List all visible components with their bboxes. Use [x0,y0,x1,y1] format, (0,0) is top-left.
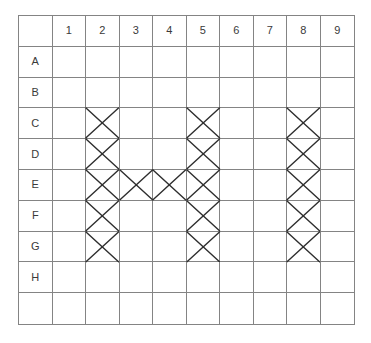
grid-cell [53,47,87,78]
x-mark-icon [287,170,320,200]
grid-cell [153,108,187,139]
grid-cell-marked [86,201,120,232]
grid-cell [53,201,87,232]
grid-cell-marked [86,139,120,170]
grid-cell-marked [287,170,321,201]
grid-cell [321,108,355,139]
grid-cell [220,108,254,139]
coordinate-grid: 123456789ABCDEFGH [18,15,355,325]
grid-cell [120,293,154,324]
row-label: H [19,262,53,293]
x-mark-icon [187,170,220,200]
grid-cell [220,201,254,232]
grid-cell [287,78,321,109]
grid-cell [187,78,221,109]
column-header: 5 [187,16,221,47]
grid-cell-marked [86,232,120,263]
grid-cell-marked [287,201,321,232]
grid-cell [153,262,187,293]
grid-cell [120,78,154,109]
grid-cell [220,47,254,78]
grid-cell [220,293,254,324]
x-mark-icon [187,201,220,231]
grid-cell [53,262,87,293]
grid-cell [187,262,221,293]
grid-cell [321,201,355,232]
grid-cell [53,170,87,201]
x-mark-icon [287,139,320,169]
column-header: 7 [254,16,288,47]
x-mark-icon [187,232,220,262]
grid-cell [254,108,288,139]
row-label: F [19,201,53,232]
x-mark-icon [287,232,320,262]
grid-cell [120,139,154,170]
grid-cell [321,170,355,201]
column-header: 2 [86,16,120,47]
grid-cell [220,262,254,293]
grid-cell [254,47,288,78]
grid-cell [153,232,187,263]
grid-cell [321,262,355,293]
grid-cell [254,232,288,263]
grid-cell [220,139,254,170]
grid-cell [254,262,288,293]
row-label: G [19,232,53,263]
grid-cell [86,47,120,78]
grid-cell [254,170,288,201]
row-label: B [19,78,53,109]
grid-cell [153,201,187,232]
x-mark-icon [86,170,119,200]
column-header: 6 [220,16,254,47]
grid-cell [254,293,288,324]
grid-cell-marked [287,139,321,170]
grid-cell [321,232,355,263]
grid-cell-marked [287,232,321,263]
grid-cell [53,293,87,324]
grid-cell [53,108,87,139]
grid-cell [153,78,187,109]
grid-cell [153,139,187,170]
empty-row-label [19,293,53,324]
grid-cell-marked [187,232,221,263]
grid-cell [53,232,87,263]
x-mark-icon [86,108,119,138]
grid-cell [287,293,321,324]
grid-cell [321,139,355,170]
x-mark-icon [187,108,220,138]
corner-cell [19,16,53,47]
column-header: 3 [120,16,154,47]
grid-cell [86,293,120,324]
grid-cell [254,201,288,232]
grid-cell [287,47,321,78]
column-header: 8 [287,16,321,47]
grid-cell [53,78,87,109]
row-label: A [19,47,53,78]
x-mark-icon [153,170,186,200]
grid-cell [86,262,120,293]
grid-cell-marked [86,108,120,139]
grid-cell [254,78,288,109]
x-mark-icon [86,201,119,231]
grid-cell [254,139,288,170]
grid-cell-marked [187,201,221,232]
grid-cell [53,139,87,170]
grid-cell [187,47,221,78]
grid-cell-marked [187,139,221,170]
grid-cell [321,293,355,324]
grid-cell-marked [187,170,221,201]
grid-cell [120,262,154,293]
grid-cell-marked [287,108,321,139]
x-mark-icon [86,232,119,262]
row-label: D [19,139,53,170]
column-header: 9 [321,16,355,47]
grid-cell [287,262,321,293]
grid-cell [220,232,254,263]
x-mark-icon [86,139,119,169]
grid-cell-marked [86,170,120,201]
grid-cell [220,170,254,201]
x-mark-icon [120,170,153,200]
grid-cell [187,293,221,324]
grid-cell [120,232,154,263]
x-mark-icon [187,139,220,169]
